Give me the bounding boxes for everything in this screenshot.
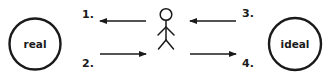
diagram-canvas: real ideal 1. 2. 3. 4. bbox=[0, 0, 331, 84]
real-label: real bbox=[24, 38, 47, 50]
person-left-arm bbox=[158, 27, 166, 35]
person-right-arm bbox=[166, 27, 174, 35]
arrow-3-number: 3. bbox=[242, 7, 254, 20]
ideal-node: ideal bbox=[269, 18, 321, 70]
arrow-2-number: 2. bbox=[82, 57, 94, 70]
person-left-leg bbox=[159, 40, 167, 49]
person-stick-figure-icon bbox=[158, 9, 174, 49]
ideal-label: ideal bbox=[281, 38, 310, 50]
arrow-2: 2. bbox=[82, 54, 146, 70]
arrow-4: 4. bbox=[190, 54, 254, 70]
arrow-1-number: 1. bbox=[82, 8, 94, 21]
person-right-leg bbox=[166, 40, 174, 49]
real-node: real bbox=[10, 19, 61, 70]
person-head bbox=[160, 9, 172, 21]
arrow-4-number: 4. bbox=[242, 57, 254, 70]
arrow-1: 1. bbox=[82, 8, 146, 21]
arrow-3: 3. bbox=[190, 7, 254, 21]
